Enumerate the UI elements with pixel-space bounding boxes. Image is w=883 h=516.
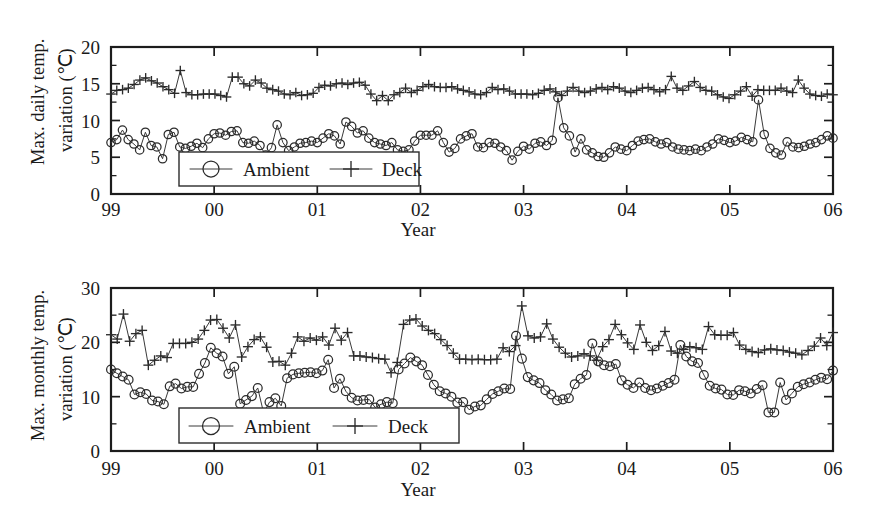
plus-marker-icon (262, 342, 272, 352)
y-tick-label: 5 (91, 147, 101, 168)
series-ambient (107, 331, 838, 417)
plus-marker-icon (230, 320, 240, 330)
plus-marker-icon (330, 323, 340, 333)
plus-marker-icon (803, 345, 813, 355)
plus-marker-icon (285, 90, 295, 100)
plus-marker-icon (632, 86, 642, 96)
x-tick-label: 02 (411, 458, 430, 479)
plus-marker-icon (401, 83, 411, 93)
legend-monthly: Ambient Deck (179, 408, 459, 443)
plus-marker-icon (162, 353, 172, 363)
plus-marker-icon (218, 323, 228, 333)
plus-marker-icon (649, 85, 659, 95)
plus-marker-icon (337, 78, 347, 88)
plus-marker-icon (542, 319, 552, 329)
plus-marker-icon (747, 347, 757, 357)
plus-marker-icon (548, 334, 558, 344)
plus-marker-icon (430, 82, 440, 92)
plus-marker-icon (597, 83, 607, 93)
y-tick-label: 15 (81, 74, 100, 95)
plus-marker-icon (697, 344, 707, 354)
plus-marker-icon (573, 351, 583, 361)
x-tick-label: 06 (824, 458, 843, 479)
plus-marker-icon (331, 79, 341, 89)
plus-marker-icon (822, 89, 832, 99)
plus-marker-icon (641, 337, 651, 347)
plus-marker-icon (453, 84, 463, 94)
chart-panel-daily: Max. daily temp. variation (℃) 05101520 … (0, 0, 883, 256)
y-axis-title-monthly: Max. monthly temp. variation (℃) (28, 290, 77, 441)
plus-marker-icon (118, 85, 128, 95)
plus-marker-icon (586, 86, 596, 96)
legend-entry-ambient-daily: Ambient (190, 159, 310, 180)
plus-marker-icon (523, 331, 533, 341)
plus-marker-icon (118, 309, 128, 319)
plus-marker-icon (199, 325, 209, 335)
plus-marker-icon (778, 345, 788, 355)
plus-marker-icon (579, 349, 589, 359)
plus-marker-icon (760, 345, 770, 355)
plus-marker-icon (529, 333, 539, 343)
plus-marker-icon (407, 88, 417, 98)
plus-marker-icon (499, 84, 509, 94)
plus-marker-icon (492, 354, 502, 364)
plus-marker-icon (522, 89, 532, 99)
series-group-monthly (106, 301, 838, 417)
plus-marker-icon (493, 85, 503, 95)
plus-marker-icon (718, 92, 728, 102)
plus-marker-icon (791, 348, 801, 358)
plus-marker-icon (691, 343, 701, 353)
plus-marker-icon (684, 81, 694, 91)
plus-marker-icon (660, 326, 670, 336)
plus-marker-icon (735, 340, 745, 350)
plus-marker-icon (643, 83, 653, 93)
plus-marker-icon (535, 332, 545, 342)
x-tick-label: 00 (205, 458, 224, 479)
plus-marker-icon (661, 85, 671, 95)
y-tick-labels-daily: 05101520 (81, 37, 100, 205)
x-tick-label: 05 (720, 199, 739, 220)
x-tick-label: 03 (514, 458, 533, 479)
x-tick-labels-monthly: 9900010203040506 (102, 458, 843, 479)
plus-marker-icon (447, 82, 457, 92)
y-tick-labels-monthly: 0102030 (81, 278, 100, 462)
chart-svg-monthly: Max. monthly temp. variation (℃) 0102030… (0, 256, 883, 516)
plus-marker-icon (464, 87, 474, 97)
y-tick-label: 0 (91, 441, 101, 462)
plus-marker-icon (811, 91, 821, 101)
series-deck (106, 301, 838, 378)
plus-marker-icon (626, 88, 636, 98)
x-tick-label: 06 (824, 199, 843, 220)
x-tick-labels-daily: 9900010203040506 (102, 199, 843, 220)
y-tick-label: 20 (81, 37, 100, 58)
plus-marker-icon (441, 83, 451, 93)
plus-marker-icon (766, 344, 776, 354)
plus-marker-icon (150, 355, 160, 365)
y-tick-label: 10 (81, 111, 100, 132)
x-tick-label: 05 (720, 458, 739, 479)
plus-marker-icon (666, 346, 676, 356)
plus-marker-icon (459, 86, 469, 96)
y-axis-title-line1-daily: Max. daily temp. (28, 39, 48, 165)
plus-marker-icon (156, 351, 166, 361)
plus-marker-icon (591, 84, 601, 94)
series-line (111, 336, 833, 413)
y-tick-label: 20 (81, 332, 100, 353)
plus-marker-icon (784, 347, 794, 357)
plus-marker-icon (210, 89, 220, 99)
plus-marker-icon (610, 319, 620, 329)
plus-marker-icon (326, 81, 336, 91)
plus-marker-icon (635, 320, 645, 330)
plus-marker-icon (222, 92, 232, 102)
plus-marker-icon (212, 315, 222, 325)
plus-marker-icon (788, 88, 798, 98)
y-axis-title-line2-monthly: variation (℃) (56, 317, 77, 421)
plus-marker-icon (728, 328, 738, 338)
plus-marker-icon (817, 91, 827, 101)
plus-marker-icon (580, 88, 590, 98)
plus-marker-icon (367, 353, 377, 363)
plus-marker-icon (380, 354, 390, 364)
plus-marker-icon (770, 86, 780, 96)
plus-marker-icon (476, 90, 486, 100)
plus-marker-icon (324, 340, 334, 350)
